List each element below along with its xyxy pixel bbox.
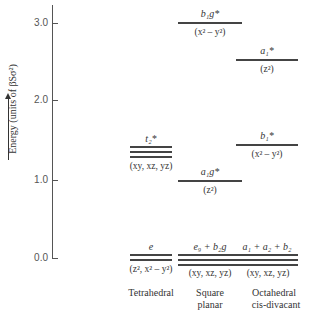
level-line — [178, 254, 242, 256]
column-label-square: Square — [176, 287, 244, 299]
level-line — [130, 259, 172, 261]
level-label-b1: b₁* — [236, 130, 298, 141]
level-line — [130, 254, 172, 256]
y-axis-line — [52, 5, 53, 259]
column-label-cis-divacant: cis-divacant — [236, 299, 316, 311]
orbital-label-b1g: (x² – y²) — [178, 27, 242, 38]
column-label-octahedral: Octahedral — [236, 287, 312, 299]
level-line — [178, 259, 242, 261]
level-line — [178, 22, 242, 24]
level-label-b1g: b₁g* — [178, 8, 242, 19]
level-line — [130, 156, 172, 158]
level-line — [178, 180, 242, 182]
tick-3 — [52, 23, 58, 24]
orbital-label-b1: (x² – y²) — [234, 149, 300, 160]
level-line — [178, 264, 242, 266]
orbital-label-a1-a2-b2: (xy, xz, yz) — [232, 268, 304, 279]
orbital-label-a1: (z²) — [236, 64, 298, 75]
level-line — [236, 59, 298, 61]
tick-1 — [52, 180, 58, 181]
level-line — [236, 259, 298, 261]
level-label-e: e — [130, 241, 172, 252]
tick-label-3: 3.0 — [24, 18, 48, 28]
orbital-label-a1g: (z²) — [178, 185, 242, 196]
column-label-planar: planar — [176, 299, 244, 311]
tick-0 — [52, 258, 58, 259]
level-label-a1-a2-b2: a₁ + a₂ + b₂ — [232, 241, 302, 252]
tick-2 — [52, 100, 58, 101]
level-line — [130, 151, 172, 153]
tick-label-2: 2.0 — [24, 95, 48, 105]
tick-label-1: 1.0 — [24, 175, 48, 185]
level-line — [236, 264, 298, 266]
level-label-a1g: a₁g* — [178, 166, 242, 177]
level-line — [236, 254, 298, 256]
tick-label-0: 0.0 — [24, 253, 48, 263]
orbital-label-t2: (xy, xz, yz) — [120, 161, 182, 172]
arrow-up-icon — [8, 98, 9, 160]
level-label-t2: t₂* — [130, 133, 172, 144]
level-line — [130, 146, 172, 148]
level-line — [236, 144, 298, 146]
level-label-a1: a₁* — [236, 45, 298, 56]
